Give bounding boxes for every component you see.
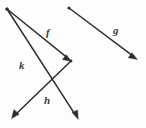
vector-label-h: h (44, 95, 50, 106)
vector-k-shaft (7, 9, 75, 114)
vector-f-shaft (7, 9, 68, 58)
vector-label-k: k (19, 60, 25, 71)
vector-h-arrowhead (12, 109, 20, 118)
vector-label-g: g (113, 25, 119, 36)
vector-diagram: f g h k (0, 0, 146, 128)
vector-label-f: f (46, 27, 50, 38)
vector-g-shaft (69, 8, 133, 56)
vector-f (5, 7, 71, 61)
vector-k (5, 7, 78, 119)
vector-g (67, 6, 137, 59)
